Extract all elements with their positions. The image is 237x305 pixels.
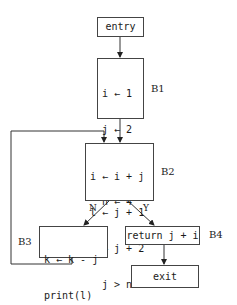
b3-line-2: print(l) (44, 290, 103, 302)
edge-label-no: N (89, 203, 97, 213)
b2-label: B2 (161, 166, 175, 177)
block-b2: i ← i + j l ← j + 1 j ← j + 2 j > n (85, 143, 154, 201)
b2-line-2: l ← j + 1 (90, 207, 149, 219)
b1-line-2: j ← 2 (102, 124, 139, 136)
edge-label-yes: Y (143, 203, 149, 213)
block-b4: return j + i (125, 226, 200, 245)
b1-line-1: i ← 1 (102, 88, 139, 100)
b4-label: B4 (209, 229, 223, 240)
block-b3: k ← k - j print(l) (39, 226, 108, 258)
block-b1: i ← 1 j ← 2 k ← 3 n ← 4 (97, 58, 144, 119)
entry-label: entry (105, 21, 135, 33)
b4-code: return j + i (126, 230, 198, 242)
b2-line-1: i ← i + j (90, 171, 149, 183)
b3-line-1: k ← k - j (44, 254, 103, 266)
exit-label: exit (153, 271, 177, 283)
b3-label: B3 (18, 236, 32, 247)
entry-node: entry (97, 17, 144, 37)
b1-label: B1 (151, 83, 165, 94)
exit-node: exit (131, 265, 199, 288)
